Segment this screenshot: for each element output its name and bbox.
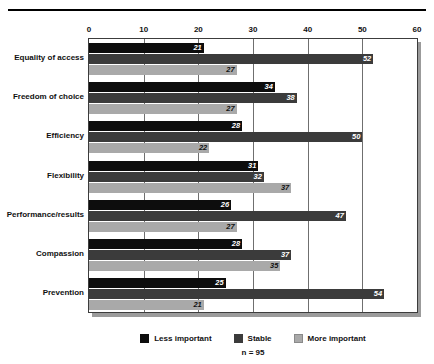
bar-value-label: 28: [232, 239, 240, 249]
x-tick-label: 40: [293, 25, 323, 35]
category-label: Performance/results: [0, 210, 84, 220]
bar: 31: [89, 161, 258, 171]
bar: 35: [89, 261, 280, 271]
bar-value-label: 52: [363, 54, 371, 64]
bar-value-label: 37: [281, 183, 289, 193]
bar-value-label: 21: [193, 43, 201, 53]
bar-value-label: 21: [193, 300, 201, 310]
bar: 32: [89, 172, 264, 182]
bar-value-label: 47: [336, 211, 344, 221]
bar-group: 285022: [89, 121, 417, 153]
category-label: Equality of access: [0, 53, 84, 63]
legend-label: Less important: [154, 334, 211, 343]
bar-value-label: 38: [286, 93, 294, 103]
chart-title-clipped: [0, 0, 434, 7]
chart-figure: 0102030405060 21522734382728502231323726…: [0, 0, 434, 364]
bar-group: 264727: [89, 200, 417, 232]
bar-value-label: 31: [248, 161, 256, 171]
bar-group: 215227: [89, 43, 417, 75]
bar: 27: [89, 104, 237, 114]
category-label: Prevention: [0, 288, 84, 298]
x-tick-label: 30: [238, 25, 268, 35]
bar: 37: [89, 250, 291, 260]
bar: 21: [89, 300, 204, 310]
y-axis-category-labels: Equality of accessFreedom of choiceEffic…: [0, 38, 84, 313]
bar-value-label: 27: [226, 65, 234, 75]
bar-value-label: 27: [226, 104, 234, 114]
bar: 52: [89, 54, 373, 64]
bar-value-label: 35: [270, 261, 278, 271]
bar-value-label: 54: [374, 289, 382, 299]
bar-group: 283735: [89, 239, 417, 271]
bar: 50: [89, 132, 362, 142]
bar-group: 255421: [89, 278, 417, 310]
legend-swatch-icon: [234, 334, 243, 343]
bar-value-label: 28: [232, 121, 240, 131]
bar: 28: [89, 239, 242, 249]
bar: 28: [89, 121, 242, 131]
bar: 25: [89, 278, 226, 288]
x-tick-label: 10: [129, 25, 159, 35]
bar-value-label: 37: [281, 250, 289, 260]
chart-legend: Less importantStableMore important: [88, 331, 418, 345]
x-tick-label: 60: [402, 25, 432, 35]
bar: 21: [89, 43, 204, 53]
bar: 47: [89, 211, 346, 221]
legend-item[interactable]: Stable: [234, 334, 272, 343]
x-tick-label: 0: [74, 25, 104, 35]
plot-area: 2152273438272850223132372647272837352554…: [88, 38, 418, 313]
bar: 54: [89, 289, 384, 299]
bar: 27: [89, 65, 237, 75]
bar-value-label: 27: [226, 222, 234, 232]
bar: 22: [89, 143, 209, 153]
bar-value-label: 22: [199, 143, 207, 153]
legend-label: More important: [308, 334, 366, 343]
category-label: Flexibility: [0, 171, 84, 181]
legend-swatch-icon: [294, 334, 303, 343]
bar-value-label: 50: [352, 132, 360, 142]
x-tick-label: 50: [347, 25, 377, 35]
x-tick-label: 20: [183, 25, 213, 35]
bar-value-label: 26: [221, 200, 229, 210]
legend-label: Stable: [248, 334, 272, 343]
legend-swatch-icon: [140, 334, 149, 343]
bar-value-label: 32: [254, 172, 262, 182]
bar-rows: 2152273438272850223132372647272837352554…: [89, 39, 417, 312]
category-label: Compassion: [0, 249, 84, 259]
bar-value-label: 34: [265, 82, 273, 92]
bar-value-label: 25: [215, 278, 223, 288]
bar-group: 313237: [89, 161, 417, 193]
category-label: Efficiency: [0, 131, 84, 141]
title-rule: [8, 9, 426, 11]
category-label: Freedom of choice: [0, 92, 84, 102]
legend-item[interactable]: More important: [294, 334, 366, 343]
bar: 26: [89, 200, 231, 210]
bar: 34: [89, 82, 275, 92]
legend-item[interactable]: Less important: [140, 334, 211, 343]
bar: 27: [89, 222, 237, 232]
bar: 37: [89, 183, 291, 193]
x-axis-tick-labels: 0102030405060: [0, 25, 434, 37]
sample-size-footnote: n = 95: [88, 348, 418, 357]
bar: 38: [89, 93, 297, 103]
bar-group: 343827: [89, 82, 417, 114]
